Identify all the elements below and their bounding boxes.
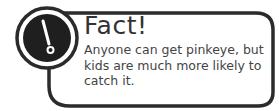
- callout-body: Anyone can get pinkeye, but kids are muc…: [84, 42, 269, 89]
- exclamation-icon: [17, 8, 77, 68]
- callout-title: Fact!: [84, 12, 147, 40]
